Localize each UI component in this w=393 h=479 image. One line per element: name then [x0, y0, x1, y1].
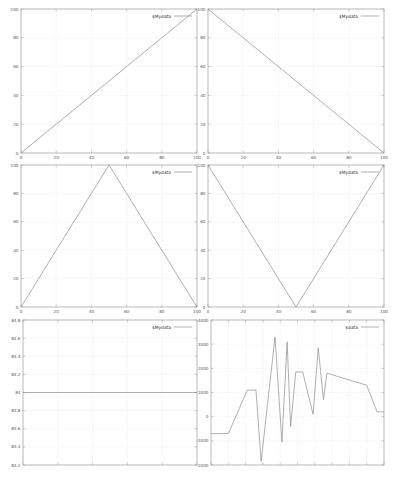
y-tick-label: 84.6 [11, 336, 21, 341]
y-tick-label: 20 [13, 276, 19, 281]
legend: $Mydata [152, 170, 192, 175]
y-tick-label: -2000 [196, 463, 209, 468]
legend-label: $data [345, 325, 358, 330]
y-tick-label: 2000 [198, 366, 209, 371]
y-tick-label: 80 [13, 35, 19, 40]
y-tick-label: 84.8 [11, 318, 21, 323]
y-tick-label: 100 [198, 163, 206, 168]
y-tick-label: 1000 [198, 390, 209, 395]
legend: $Mydata [339, 170, 379, 175]
y-tick-label: 80 [200, 35, 206, 40]
legend: $Mydata [152, 325, 192, 330]
chart-top-right: 020406080100020406080100$Mydata [197, 0, 393, 160]
y-tick-label: 40 [200, 248, 206, 253]
y-tick-label: 3000 [198, 342, 209, 347]
y-tick-label: 83.6 [11, 426, 21, 431]
y-tick-label: 100 [11, 163, 19, 168]
y-tick-label: 83.4 [11, 444, 21, 449]
data-series-line [21, 9, 197, 153]
y-tick-label: 20 [200, 122, 206, 127]
legend-label: $Mydata [152, 170, 171, 175]
y-tick-label: 100 [198, 7, 206, 12]
chart-svg: 020406080100020406080100$Mydata [0, 158, 197, 316]
y-tick-label: 80 [200, 191, 206, 196]
y-tick-label: 84.4 [11, 354, 21, 359]
y-tick-label: 84 [15, 390, 21, 395]
data-series-line [208, 165, 384, 307]
plot-frame [21, 165, 197, 307]
chart-top-left: 020406080100020406080100$Mydata [0, 0, 197, 160]
legend: $data [345, 325, 379, 330]
y-tick-label: 80 [13, 191, 19, 196]
y-tick-label: 0 [206, 414, 209, 419]
y-tick-label: 40 [13, 248, 19, 253]
chart-middle-right: 020406080100020406080100$Mydata [197, 158, 393, 316]
y-tick-label: 100 [11, 7, 19, 12]
chart-svg: 020406080100020406080100$Mydata [197, 158, 393, 316]
data-series-line [208, 9, 384, 153]
chart-svg: 83.283.483.683.88484.284.484.684.8$Mydat… [0, 314, 197, 479]
grid [208, 165, 384, 307]
y-tick-label: -1000 [196, 438, 209, 443]
y-tick-label: 0 [203, 305, 206, 310]
chart-bottom-right: -2000-100001000200030004000$data [197, 314, 393, 479]
y-tick-label: 40 [200, 93, 206, 98]
data-series-line [21, 165, 197, 307]
y-tick-label: 83.2 [11, 463, 21, 468]
legend-label: $Mydata [339, 14, 358, 19]
chart-svg: 020406080100020406080100$Mydata [0, 0, 197, 160]
chart-bottom-left: 83.283.483.683.88484.284.484.684.8$Mydat… [0, 314, 197, 479]
y-tick-label: 4000 [198, 318, 209, 323]
y-tick-label: 60 [13, 64, 19, 69]
chart-svg: 020406080100020406080100$Mydata [197, 0, 393, 160]
chart-svg: -2000-100001000200030004000$data [197, 314, 393, 479]
legend-label: $Mydata [152, 14, 171, 19]
y-tick-label: 0 [16, 151, 19, 156]
y-tick-label: 20 [200, 276, 206, 281]
y-tick-label: 0 [203, 151, 206, 156]
y-tick-label: 60 [13, 219, 19, 224]
y-tick-label: 60 [200, 64, 206, 69]
plot-frame [208, 165, 384, 307]
y-tick-label: 60 [200, 219, 206, 224]
grid [211, 320, 384, 465]
legend-label: $Mydata [339, 170, 358, 175]
y-tick-label: 20 [13, 122, 19, 127]
y-tick-label: 83.8 [11, 408, 21, 413]
grid [21, 165, 197, 307]
legend: $Mydata [339, 14, 379, 19]
chart-middle-left: 020406080100020406080100$Mydata [0, 158, 197, 316]
y-tick-label: 84.2 [11, 372, 21, 377]
y-tick-label: 40 [13, 93, 19, 98]
legend-label: $Mydata [152, 325, 171, 330]
y-tick-label: 0 [16, 305, 19, 310]
